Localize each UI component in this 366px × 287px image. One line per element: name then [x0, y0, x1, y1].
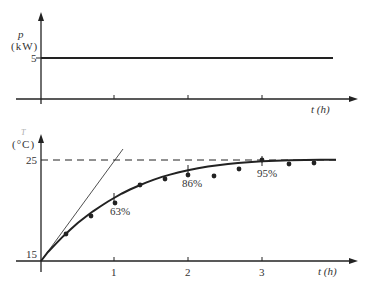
- bottom-x-tick-1: 1: [111, 267, 117, 278]
- bottom-y-symbol: T: [21, 127, 25, 138]
- annotation-86-percent: 86%: [182, 178, 202, 189]
- annotation-95-percent: 95%: [257, 168, 277, 179]
- chart-canvas: [0, 0, 366, 287]
- bottom-y-unit: (°C): [12, 139, 35, 150]
- bottom-x-tick-3: 3: [259, 267, 265, 278]
- top-y-unit: (kW): [11, 41, 38, 52]
- power-chart: [16, 12, 358, 104]
- bottom-x-label: t (h): [318, 266, 337, 277]
- annotation-63-percent: 63%: [110, 206, 130, 217]
- top-x-label-text: t (h): [311, 103, 330, 115]
- top-y-arrow-icon: [38, 12, 44, 21]
- top-y-tick-5: 5: [31, 53, 37, 64]
- bottom-x-arrow-icon: [349, 258, 358, 264]
- bottom-x-tick-2: 2: [185, 267, 191, 278]
- temperature-chart: [16, 134, 358, 272]
- bottom-y-arrow-icon: [38, 134, 44, 143]
- top-x-arrow-icon: [349, 96, 358, 102]
- top-y-symbol: p: [18, 29, 24, 40]
- bottom-y-tick-15: 15: [26, 249, 37, 260]
- top-x-label: t (h): [311, 104, 330, 115]
- bottom-y-tick-25: 25: [26, 155, 37, 166]
